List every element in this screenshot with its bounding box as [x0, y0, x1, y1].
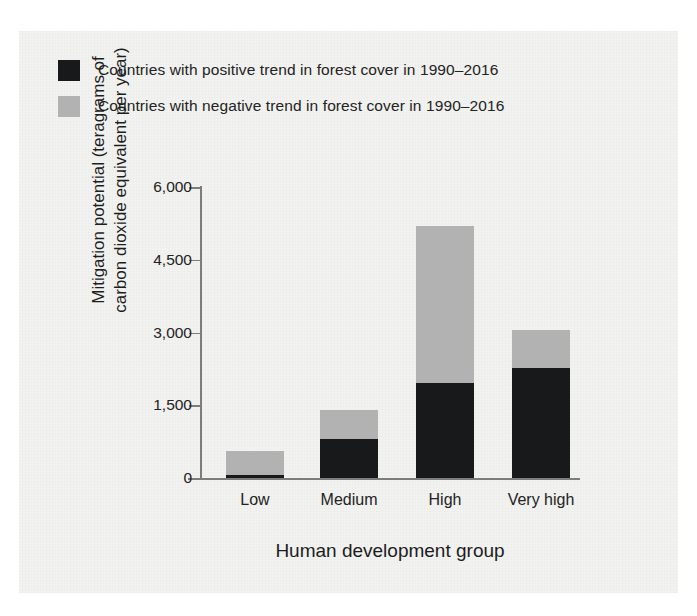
legend-item-negative: Countries with negative trend in forest … — [58, 91, 618, 121]
y-axis-title: Mitigation potential (teragrams of carbo… — [80, 10, 140, 350]
y-axis-title-line-2: carbon dioxide equivalent per year) — [110, 15, 132, 345]
legend-swatch-negative-icon — [58, 96, 80, 117]
y-axis-line — [200, 186, 202, 479]
bar-segment-negative-trend[interactable] — [512, 330, 570, 368]
figure-root: Countries with positive trend in forest … — [0, 0, 697, 616]
y-axis-tick-label: 4,500 — [153, 251, 192, 269]
bar-high[interactable] — [416, 226, 474, 478]
x-axis-line — [188, 478, 580, 480]
chart-legend: Countries with positive trend in forest … — [58, 55, 618, 127]
y-axis-title-line-1: Mitigation potential (teragrams of — [88, 15, 110, 345]
bar-segment-negative-trend[interactable] — [226, 451, 284, 474]
plot-area: 01,5003,0004,5006,000 LowMediumHighVery … — [200, 186, 580, 479]
bar-segment-positive-trend[interactable] — [320, 439, 378, 478]
x-axis-tick-label: Very high — [481, 491, 601, 509]
bar-segment-positive-trend[interactable] — [416, 383, 474, 478]
x-axis-title: Human development group — [180, 540, 600, 562]
bar-segment-positive-trend[interactable] — [226, 475, 284, 478]
y-axis-tick-label: 6,000 — [153, 178, 192, 196]
bar-segment-positive-trend[interactable] — [512, 368, 570, 478]
bar-very-high[interactable] — [512, 330, 570, 478]
legend-item-positive: Countries with positive trend in forest … — [58, 55, 618, 85]
y-axis-tick-label: 0 — [183, 469, 192, 487]
legend-swatch-positive-icon — [58, 60, 80, 81]
bar-segment-negative-trend[interactable] — [320, 410, 378, 439]
y-axis-tick-label: 3,000 — [153, 324, 192, 342]
y-axis-tick-label: 1,500 — [153, 396, 192, 414]
bar-segment-negative-trend[interactable] — [416, 226, 474, 384]
legend-label-positive: Countries with positive trend in forest … — [98, 61, 498, 79]
bar-medium[interactable] — [320, 410, 378, 478]
legend-label-negative: Countries with negative trend in forest … — [98, 97, 504, 115]
bar-low[interactable] — [226, 451, 284, 478]
